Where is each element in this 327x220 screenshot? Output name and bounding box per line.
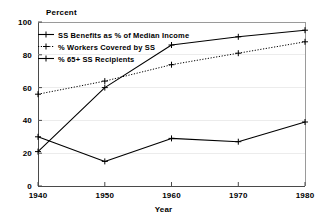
chart-container: Percent [0,0,327,220]
x-tick-label-1940: 1940 [18,191,58,200]
series-ss-benefits [35,119,308,164]
legend-marker-65plus-recipients [38,56,54,62]
x-axis-ticks [38,182,305,186]
x-tick-label-1950: 1950 [85,191,125,200]
x-tick-label-1960: 1960 [152,191,192,200]
y-tick-label-60: 60 [6,84,32,93]
y-tick-label-80: 80 [6,51,32,60]
y-tick-label-0: 0 [6,182,32,191]
x-tick-label-1970: 1970 [218,191,258,200]
legend-marker-workers-covered [38,44,54,50]
y-tick-label-20: 20 [6,149,32,158]
y-tick-label-40: 40 [6,116,32,125]
legend-label-ss-benefits: SS Benefits as % of Median Income [58,31,189,40]
legend-markers [38,32,54,62]
y-tick-label-100: 100 [6,18,32,27]
legend-label-workers-covered: % Workers Covered by SS [58,43,155,52]
legend-marker-ss-benefits [38,32,54,38]
legend-label-65plus-recipients: % 65+ SS Recipients [58,55,134,64]
x-tick-label-1980: 1980 [285,191,325,200]
x-axis-title: Year [0,205,327,214]
